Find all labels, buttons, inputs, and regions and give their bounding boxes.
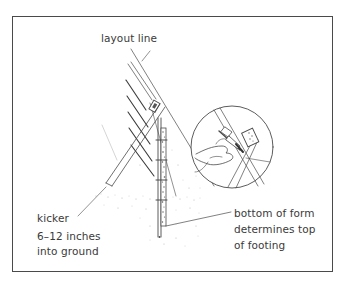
form-boards [126, 80, 154, 176]
kicker-depth-line1: 6–12 inches [37, 228, 101, 244]
bottom-of-form-line1: bottom of form [234, 205, 315, 221]
hammer-detail-inset [191, 106, 273, 188]
kicker-brace [106, 104, 165, 186]
kicker-label: kicker [37, 210, 69, 226]
kicker-leader [78, 187, 106, 216]
bottom-of-form-line3: of footing [234, 237, 285, 253]
ground-stipple [96, 150, 201, 247]
layout-line-leader [142, 51, 150, 61]
layout-line-label: layout line [101, 30, 157, 46]
bottom-of-form-line2: determines top [234, 221, 316, 237]
kicker-depth-line2: into ground [37, 243, 99, 259]
